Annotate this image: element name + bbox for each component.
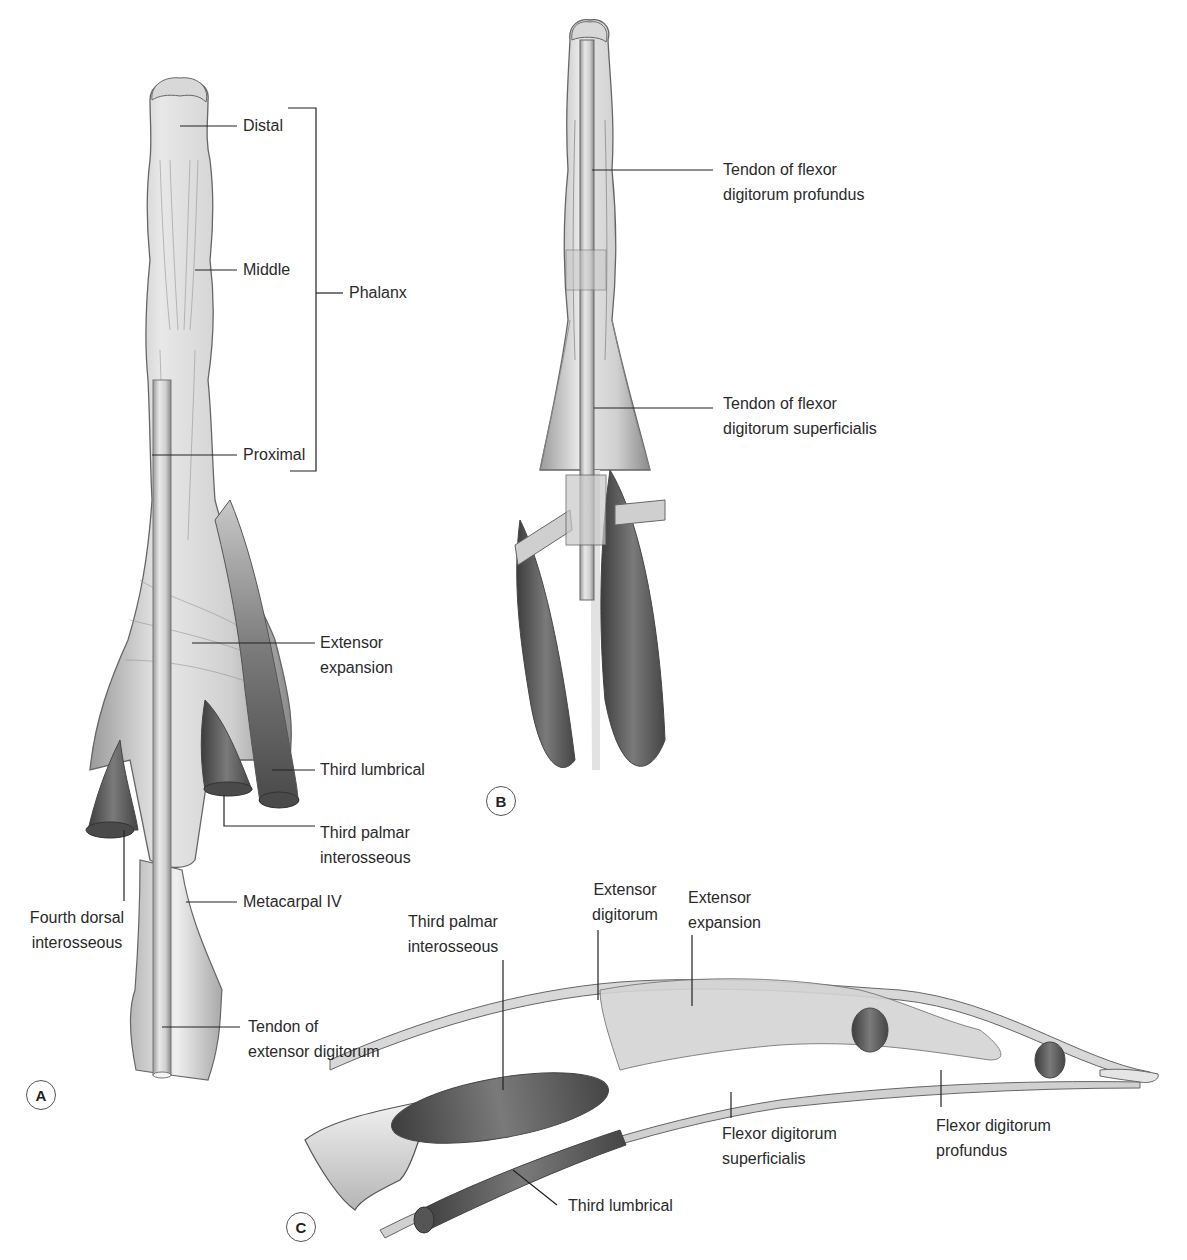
panel-c-finger bbox=[305, 979, 1158, 1238]
label-ext-dig-c-1: Extensor bbox=[580, 880, 670, 899]
label-third-lumbrical-a: Third lumbrical bbox=[320, 760, 425, 779]
panel-b-finger bbox=[515, 20, 665, 770]
label-extensor-expansion-a-1: Extensor bbox=[320, 633, 383, 652]
label-fds-b-1: Tendon of flexor bbox=[723, 394, 837, 413]
label-palmar-c-1: Third palmar bbox=[398, 912, 508, 931]
label-fdp-c-1: Flexor digitorum bbox=[936, 1116, 1051, 1135]
label-metacarpal-iv: Metacarpal IV bbox=[243, 892, 342, 911]
extensor-expansion-hood bbox=[600, 979, 1001, 1070]
label-palmar-c-2: interosseous bbox=[398, 937, 508, 956]
label-fourth-dorsal-1: Fourth dorsal bbox=[22, 908, 132, 927]
label-tendon-extensor-2: extensor digitorum bbox=[248, 1042, 380, 1061]
label-fdp-b-2: digitorum profundus bbox=[723, 185, 864, 204]
third-palmar-interosseous-c bbox=[386, 1059, 613, 1156]
label-middle: Middle bbox=[243, 260, 290, 279]
label-ext-exp-c-1: Extensor bbox=[688, 888, 751, 907]
label-fds-c-1: Flexor digitorum bbox=[722, 1124, 837, 1143]
label-tendon-extensor-1: Tendon of bbox=[248, 1017, 318, 1036]
label-fourth-dorsal-2: interosseous bbox=[22, 933, 132, 952]
label-third-palmar-a-1: Third palmar bbox=[320, 823, 410, 842]
extensor-digitorum-tendon bbox=[153, 380, 171, 1075]
label-ext-exp-c-2: expansion bbox=[688, 913, 761, 932]
label-lumbrical-c: Third lumbrical bbox=[568, 1196, 673, 1215]
metacarpal-bone bbox=[131, 860, 222, 1080]
label-fds-b-2: digitorum superficialis bbox=[723, 419, 877, 438]
label-distal: Distal bbox=[243, 116, 283, 135]
label-proximal: Proximal bbox=[243, 445, 305, 464]
panel-badge-c: C bbox=[286, 1212, 316, 1242]
label-fdp-c-2: profundus bbox=[936, 1141, 1007, 1160]
label-fdp-b-1: Tendon of flexor bbox=[723, 160, 837, 179]
label-third-palmar-a-2: interosseous bbox=[320, 848, 411, 867]
panel-badge-a: A bbox=[26, 1080, 56, 1110]
label-fds-c-2: superficialis bbox=[722, 1149, 806, 1168]
label-extensor-expansion-a-2: expansion bbox=[320, 658, 393, 677]
finger-b-body bbox=[540, 20, 650, 470]
third-lumbrical-c bbox=[420, 1130, 626, 1230]
panel-a-finger bbox=[86, 78, 299, 1080]
panel-badge-b: B bbox=[486, 786, 516, 816]
transverse-band-right bbox=[615, 500, 665, 525]
anatomy-illustration bbox=[0, 0, 1187, 1260]
label-ext-dig-c-2: digitorum bbox=[580, 905, 670, 924]
label-phalanx: Phalanx bbox=[349, 283, 407, 302]
